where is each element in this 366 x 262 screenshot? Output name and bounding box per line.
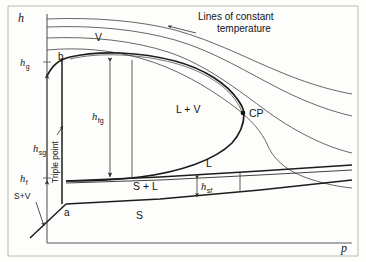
region-label-solid-liquid: S + L <box>133 180 158 192</box>
region-label-liquid-vapor: L + V <box>176 103 200 115</box>
annotation-isotherms: Lines of constant temperature <box>198 11 274 34</box>
span-label-hfg: hfg <box>92 111 104 125</box>
triple-point-label: Triple point <box>50 141 60 183</box>
isotherm-callout-line2: temperature <box>217 23 271 34</box>
saturated-vapour-line <box>47 53 244 114</box>
sublimation-line <box>30 204 66 238</box>
phase-diagram-svg: h p hg hf hsg hfg hsf V <box>0 0 366 262</box>
saturation-dome <box>47 53 244 181</box>
point-label-a: a <box>64 207 70 218</box>
fusion-upper-companion <box>66 170 352 183</box>
point-label-cp: CP <box>249 107 264 119</box>
span-label-hsf: hsf <box>201 181 212 194</box>
critical-point <box>241 111 246 116</box>
figure-frame <box>8 6 358 256</box>
isotherm-line-1 <box>47 18 352 94</box>
tick-label-hf: hf <box>20 173 28 186</box>
isotherm-line-3 <box>47 38 352 153</box>
region-labels: V L + V L S + L S S+V <box>14 31 212 221</box>
isotherm-callout-line1: Lines of constant <box>198 11 274 22</box>
saturated-liquid-line <box>66 114 244 181</box>
x-axis-label: p <box>340 241 347 255</box>
phase-boundary-lines <box>30 58 352 238</box>
critical-point-dot <box>241 111 246 116</box>
point-label-b: b <box>58 51 64 62</box>
region-label-liquid: L <box>206 157 212 169</box>
region-label-vapor: V <box>95 31 102 43</box>
axis-labels: h p <box>18 11 347 255</box>
axes <box>43 14 352 243</box>
y-tick-labels: hg hf <box>20 57 30 186</box>
region-label-solid-vapor: S+V <box>14 191 31 201</box>
solid-vapour-pointer <box>36 202 44 226</box>
dome-inner-shadow <box>70 55 242 115</box>
y-axis-label: h <box>18 11 24 25</box>
tick-label-hg: hg <box>20 57 30 71</box>
region-label-solid: S <box>136 209 143 221</box>
span-label-hsg: hsg <box>33 143 46 157</box>
phase-diagram-figure: h p hg hf hsg hfg hsf V <box>0 0 366 262</box>
annotation-triple-point: Triple point <box>50 141 60 183</box>
